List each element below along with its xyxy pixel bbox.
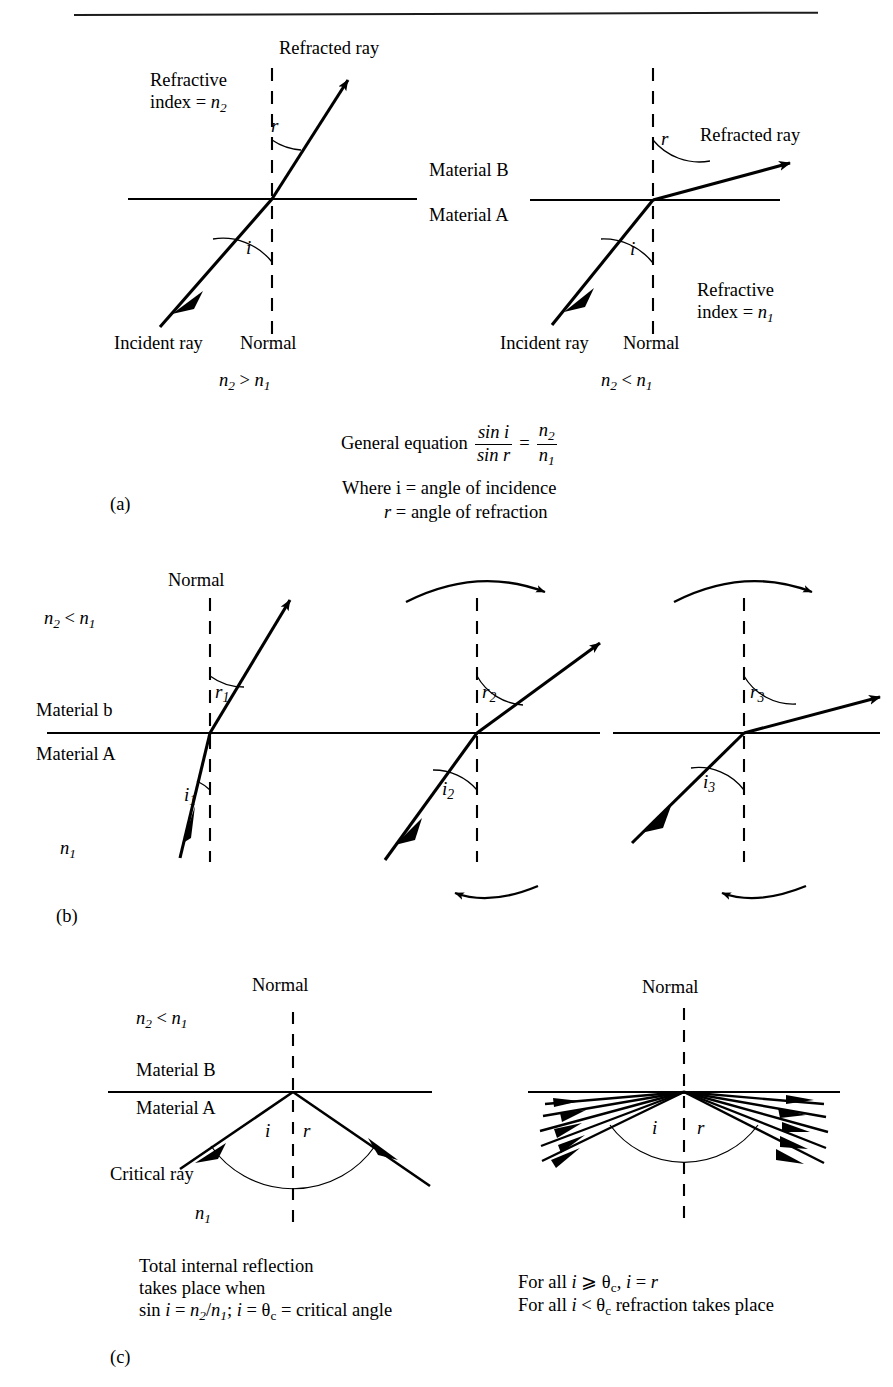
label-material-b-b: Material b: [36, 700, 113, 722]
cond-op: <: [152, 1008, 172, 1028]
cond-left-sub: 2: [610, 378, 617, 393]
i3-sub: 3: [708, 780, 715, 795]
cond-left-sym: n: [219, 370, 228, 390]
angle-label-i1: i1: [184, 784, 196, 809]
label-refracted-ray-a-left: Refracted ray: [279, 38, 379, 60]
c3-semi: ;: [227, 1300, 237, 1320]
r3-sub: 3: [757, 690, 764, 705]
label-material-a-a-right: Material A: [429, 205, 509, 227]
c3-n2-sub: 2: [199, 1307, 206, 1322]
r2-tail: refraction takes place: [611, 1295, 774, 1315]
label-material-a-b: Material A: [36, 744, 116, 766]
n1-sub: 1: [204, 1211, 211, 1226]
c3-mid: =: [170, 1300, 190, 1320]
label-n1-c-left: n1: [195, 1203, 211, 1226]
c3-n2: n: [190, 1300, 199, 1320]
cond-left-sym: n: [44, 608, 53, 628]
cond-right-sym: n: [637, 370, 646, 390]
figure-root: Refracted ray Refractive index = n2 r i …: [0, 0, 893, 1387]
c3-n1-sub: 1: [220, 1307, 227, 1322]
cond-right-sym: n: [255, 370, 264, 390]
label-material-b-a-right: Material B: [429, 160, 509, 182]
caption-line2: For all i < θc refraction takes place: [518, 1295, 774, 1315]
legend-line-incidence: Where i = angle of incidence: [342, 478, 556, 500]
label-material-b-c-left: Material B: [136, 1060, 216, 1082]
label-normal-b: Normal: [168, 570, 225, 592]
equation-lead: General equation: [341, 433, 468, 455]
equation-rhs-num: n2: [537, 421, 557, 445]
angle-label-i-c-right: i: [652, 1117, 657, 1139]
label-n1-b: n1: [60, 838, 76, 861]
caption-c-left: Total internal reflection takes place wh…: [139, 1256, 392, 1323]
angle-label-i-c-left: i: [265, 1120, 270, 1142]
angle-label-r-a-right: r: [661, 128, 668, 150]
cond-left-sym: n: [136, 1008, 145, 1028]
angle-label-r2: r2: [482, 681, 496, 706]
diagram-b-2: [330, 581, 600, 898]
refractive-index-symbol: n: [211, 92, 220, 112]
refractive-index-sub: 2: [220, 100, 227, 115]
equation-lhs-fraction: sin i sin r: [475, 423, 512, 465]
rhs-num-sym: n: [539, 420, 548, 440]
diagram-c-right: [528, 1008, 840, 1225]
label-incident-ray-a-right: Incident ray: [500, 333, 589, 355]
cond-left-sub: 2: [228, 378, 235, 393]
legend-line-refraction: r = angle of refraction: [384, 502, 548, 524]
equation-rhs-fraction: n2 n1: [537, 421, 557, 467]
cond-op: <: [60, 608, 80, 628]
r2-pre: For all: [518, 1295, 571, 1315]
c3-n1: n: [211, 1300, 220, 1320]
r2-lt: <: [577, 1295, 597, 1315]
cond-left-sub: 2: [53, 616, 60, 631]
diagram-b-3: [613, 581, 880, 898]
r1-mid: ,: [617, 1272, 626, 1292]
angle-label-i2: i2: [442, 778, 454, 803]
angle-label-i3: i3: [703, 771, 715, 796]
caption-line1: Total internal reflection: [139, 1256, 313, 1276]
cond-op: >: [235, 370, 255, 390]
label-normal-c-left: Normal: [252, 975, 309, 997]
equation-lhs-den: sin r: [475, 445, 512, 465]
angle-label-r1: r1: [215, 681, 229, 706]
cond-right-sym: n: [80, 608, 89, 628]
angle-label-r-c-right: r: [697, 1117, 704, 1139]
label-refracted-ray-a-right: Refracted ray: [700, 125, 800, 147]
refractive-index-line1: Refractive: [697, 280, 774, 300]
panel-label-c: (c): [110, 1347, 131, 1369]
condition-b: n2 < n1: [44, 608, 96, 631]
rhs-num-sub: 2: [548, 428, 555, 443]
caption-line1: For all i ⩾ θc, i = r: [518, 1272, 658, 1292]
cond-right-sub: 1: [646, 378, 653, 393]
r1-theta: θ: [602, 1272, 611, 1292]
condition-a-left: n2 > n1: [219, 370, 271, 393]
cond-right-sub: 1: [264, 378, 271, 393]
r1-pre: For all: [518, 1272, 571, 1292]
label-incident-ray-a-left: Incident ray: [114, 333, 203, 355]
r1-r: r: [651, 1272, 658, 1292]
refractive-index-sub: 1: [767, 310, 774, 325]
angle-label-i-a-left: i: [246, 237, 251, 259]
caption-c-right: For all i ⩾ θc, i = r For all i < θc ref…: [518, 1272, 774, 1319]
general-equation: General equation sin i sin r = n2 n1: [341, 421, 557, 467]
angle-label-r-a-left: r: [271, 115, 278, 137]
n1-sub: 1: [69, 846, 76, 861]
panel-label-b: (b): [56, 906, 78, 928]
caption-line3: sin i = n2/n1; i = θc = critical angle: [139, 1300, 392, 1320]
label-normal-a-right: Normal: [623, 333, 680, 355]
cond-right-sub: 1: [181, 1016, 188, 1031]
r1-ge: ⩾: [577, 1272, 602, 1292]
r2-theta: θ: [596, 1295, 605, 1315]
equation-equals: =: [519, 433, 529, 455]
legend-r-rest: = angle of refraction: [391, 502, 547, 522]
rhs-den-sub: 1: [548, 452, 555, 467]
i2-sub: 2: [447, 787, 454, 802]
i1-sub: 1: [189, 793, 196, 808]
cond-left-sym: n: [601, 370, 610, 390]
refractive-index-line2: index =: [150, 92, 211, 112]
label-normal-c-right: Normal: [642, 977, 699, 999]
angle-label-r3: r3: [750, 681, 764, 706]
angle-label-i-a-right: i: [630, 238, 635, 260]
r1-eq: =: [631, 1272, 651, 1292]
equation-lhs-num: sin i: [475, 423, 512, 444]
cond-right-sub: 1: [89, 616, 96, 631]
